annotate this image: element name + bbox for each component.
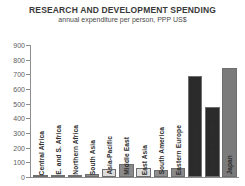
bar[interactable] (154, 170, 168, 177)
y-tick-mark (26, 60, 30, 61)
chart-subtitle: annual expenditure per person, PPP US$ (0, 16, 245, 23)
y-tick-label: 800 (13, 56, 25, 63)
bar-slot: Japan (221, 45, 238, 177)
bar[interactable] (222, 68, 236, 177)
bar-slot: Central Africa (32, 45, 49, 177)
y-tick-mark (26, 104, 30, 105)
bar-slot: Western Europe (204, 45, 221, 177)
bar-slot: Middle East (118, 45, 135, 177)
y-tick-label: 0 (21, 174, 25, 181)
bar-series: Central AfricaE. and S. AfricaNorthern A… (31, 45, 239, 177)
plot-area: 9008007006005004003002001000 Central Afr… (30, 45, 239, 178)
y-tick-mark (26, 177, 30, 178)
bar[interactable] (136, 168, 150, 177)
y-tick-label: 900 (13, 42, 25, 49)
y-tick-label: 700 (13, 71, 25, 78)
rd-spending-bar-chart: RESEARCH AND DEVELOPMENT SPENDING annual… (0, 0, 245, 186)
y-tick-mark (26, 133, 30, 134)
y-tick-label: 600 (13, 86, 25, 93)
bar[interactable] (33, 175, 47, 177)
bar-category-label: Central Africa (37, 131, 44, 175)
bar-slot: East Asia (135, 45, 152, 177)
y-tick-mark (26, 89, 30, 90)
chart-title: RESEARCH AND DEVELOPMENT SPENDING (0, 5, 245, 15)
bar[interactable] (68, 175, 82, 177)
bar[interactable] (171, 168, 185, 177)
y-tick-mark (26, 148, 30, 149)
y-tick-mark (26, 162, 30, 163)
bar[interactable] (119, 164, 133, 177)
bar-slot: Northern Africa (66, 45, 83, 177)
bar-category-label: E. and S. Africa (54, 125, 61, 175)
bar-slot: Eastern Europe (169, 45, 186, 177)
y-tick-label: 100 (13, 159, 25, 166)
bar[interactable] (205, 107, 219, 177)
bar-slot: North America (187, 45, 204, 177)
bar-slot: E. and S. Africa (49, 45, 66, 177)
y-tick-label: 200 (13, 144, 25, 151)
x-axis-line (30, 177, 239, 178)
y-tick-label: 400 (13, 115, 25, 122)
bar[interactable] (85, 174, 99, 177)
y-tick-label: 300 (13, 130, 25, 137)
bar-slot: Asia-Pacific (101, 45, 118, 177)
y-tick-mark (26, 74, 30, 75)
bar-slot: South Asia (84, 45, 101, 177)
bar-category-label: South America (157, 127, 164, 175)
bar[interactable] (51, 175, 65, 177)
bar-category-label: Northern Africa (71, 125, 78, 175)
bar-category-label: South Asia (89, 140, 96, 175)
y-tick-mark (26, 118, 30, 119)
y-tick-mark (26, 45, 30, 46)
y-tick-label: 500 (13, 100, 25, 107)
bar[interactable] (188, 76, 202, 177)
bar[interactable] (102, 169, 116, 177)
bar-slot: South America (152, 45, 169, 177)
